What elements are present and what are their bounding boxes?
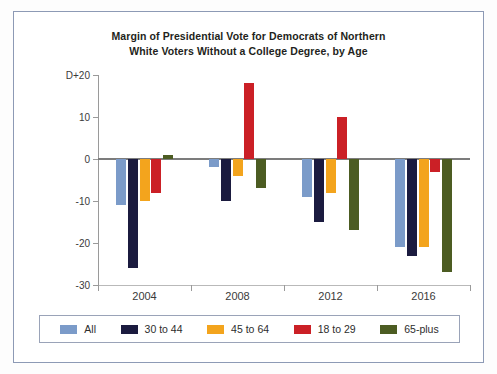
legend-swatch-icon xyxy=(380,325,397,334)
chart-title-line-2: White Voters Without a College Degree, b… xyxy=(14,44,483,59)
y-axis-label: D+20 xyxy=(66,70,90,81)
bar xyxy=(442,159,452,272)
chart-title: Margin of Presidential Vote for Democrat… xyxy=(14,29,483,58)
bar xyxy=(233,159,243,176)
legend-label: 18 to 29 xyxy=(318,323,356,335)
bar xyxy=(326,159,336,193)
bar xyxy=(314,159,324,222)
bar xyxy=(256,159,266,188)
bar xyxy=(128,159,138,268)
bar xyxy=(430,159,440,172)
x-axis-label: 2008 xyxy=(225,290,249,302)
chart-card: Margin of Presidential Vote for Democrat… xyxy=(13,11,484,363)
x-axis-tick xyxy=(377,285,378,291)
bar xyxy=(349,159,359,230)
bar xyxy=(302,159,312,197)
bar xyxy=(419,159,429,247)
bar xyxy=(209,159,219,167)
legend-item[interactable]: All xyxy=(60,323,96,335)
legend-item[interactable]: 18 to 29 xyxy=(294,323,356,335)
x-axis-label: 2012 xyxy=(318,290,342,302)
x-axis-tick xyxy=(284,285,285,291)
legend-label: 45 to 64 xyxy=(231,323,269,335)
legend-swatch-icon xyxy=(294,325,311,334)
bar xyxy=(140,159,150,201)
y-axis-label: -10 xyxy=(76,196,90,207)
chart-legend: All30 to 4445 to 6418 to 2965-plus xyxy=(39,315,460,343)
bar xyxy=(116,159,126,205)
legend-label: 30 to 44 xyxy=(145,323,183,335)
y-axis-label: -30 xyxy=(76,280,90,291)
plot-area: D+20100-10-20-302004200820122016 xyxy=(98,75,470,285)
y-axis-label: 0 xyxy=(84,154,90,165)
bar xyxy=(407,159,417,256)
x-axis-label: 2016 xyxy=(411,290,435,302)
bar xyxy=(244,83,254,159)
x-axis-tick xyxy=(470,285,471,291)
bar-group xyxy=(191,75,284,285)
bar xyxy=(221,159,231,201)
legend-swatch-icon xyxy=(207,325,224,334)
bar xyxy=(337,117,347,159)
chart-title-line-1: Margin of Presidential Vote for Democrat… xyxy=(14,29,483,44)
bar-group xyxy=(377,75,470,285)
chart-page: Margin of Presidential Vote for Democrat… xyxy=(0,0,497,374)
legend-swatch-icon xyxy=(121,325,138,334)
legend-item[interactable]: 45 to 64 xyxy=(207,323,269,335)
legend-label: All xyxy=(84,323,96,335)
legend-swatch-icon xyxy=(60,325,77,334)
bar xyxy=(395,159,405,247)
x-axis-tick xyxy=(98,285,99,291)
y-axis-label: 10 xyxy=(79,112,90,123)
legend-item[interactable]: 65-plus xyxy=(380,323,438,335)
x-axis-tick xyxy=(191,285,192,291)
bar-group xyxy=(284,75,377,285)
x-axis-label: 2004 xyxy=(132,290,156,302)
legend-label: 65-plus xyxy=(404,323,438,335)
y-axis-label: -20 xyxy=(76,238,90,249)
legend-item[interactable]: 30 to 44 xyxy=(121,323,183,335)
bar-group xyxy=(98,75,191,285)
bar xyxy=(151,159,161,193)
bar xyxy=(163,155,173,159)
